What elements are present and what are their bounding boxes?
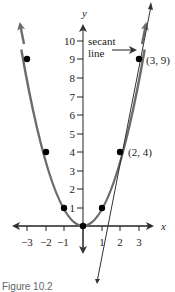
point-origin bbox=[80, 223, 86, 229]
point-2-4 bbox=[117, 149, 123, 155]
point-1-1 bbox=[99, 205, 105, 211]
y-tick-label: 9 bbox=[70, 53, 76, 65]
y-tick-label: 1 bbox=[70, 202, 76, 214]
point-label-3-9: (3, 9) bbox=[146, 54, 170, 67]
y-tick-label: 4 bbox=[70, 146, 76, 158]
x-tick-label: −3 bbox=[21, 236, 33, 248]
secant-upper-arrow bbox=[148, 2, 153, 10]
point-neg2-4 bbox=[43, 149, 49, 155]
point-label-2-4: (2, 4) bbox=[128, 146, 152, 159]
y-tick-label: 7 bbox=[70, 91, 76, 103]
x-tick-label: −1 bbox=[57, 236, 69, 248]
parabola-left-arrow bbox=[20, 24, 24, 44]
y-tick-label: 8 bbox=[70, 72, 76, 84]
figure-caption: Figure 10.2 bbox=[2, 281, 53, 292]
x-tick-label: −2 bbox=[40, 236, 52, 248]
y-tick-label: 5 bbox=[70, 128, 76, 140]
y-axis-label: y bbox=[81, 7, 87, 19]
secant-label-line2: line bbox=[88, 47, 105, 59]
y-tick-label: 6 bbox=[70, 109, 76, 121]
x-tick-label: 3 bbox=[136, 236, 142, 248]
x-tick-label: 2 bbox=[117, 236, 123, 248]
y-tick-label: 3 bbox=[70, 165, 76, 177]
secant-label-line1: secant bbox=[88, 35, 115, 47]
y-tick-label: 10 bbox=[64, 35, 76, 47]
x-axis-label: x bbox=[160, 220, 166, 232]
point-3-9 bbox=[136, 56, 142, 62]
point-neg3-9 bbox=[24, 56, 30, 62]
secant-lower-arrow bbox=[95, 279, 100, 284]
y-tick-label: 2 bbox=[70, 183, 76, 195]
secant-line bbox=[97, 6, 151, 282]
point-neg1-1 bbox=[61, 205, 67, 211]
